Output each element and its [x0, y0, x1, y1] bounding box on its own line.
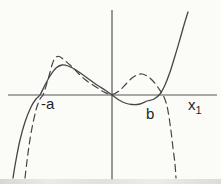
- plot-canvas: [0, 0, 221, 184]
- function-plot-figure: -a b x1: [0, 0, 221, 184]
- x-axis-label: x1: [188, 97, 202, 116]
- root-label-b: b: [146, 106, 154, 121]
- scan-edge-shadow: [0, 179, 221, 184]
- x-axis-label-subscript: 1: [196, 104, 202, 116]
- root-label-neg-a: -a: [41, 96, 54, 111]
- x-axis-label-variable: x: [188, 96, 196, 113]
